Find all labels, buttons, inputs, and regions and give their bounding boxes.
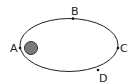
label-b: B [71,5,79,18]
orbit-diagram: A B C D [0,0,135,84]
point-a-marker [19,47,22,50]
point-c-marker [117,47,120,50]
label-c: C [120,42,128,55]
central-body [25,42,38,55]
label-d: D [99,72,107,84]
label-a: A [10,42,18,55]
point-d-marker [97,69,100,72]
